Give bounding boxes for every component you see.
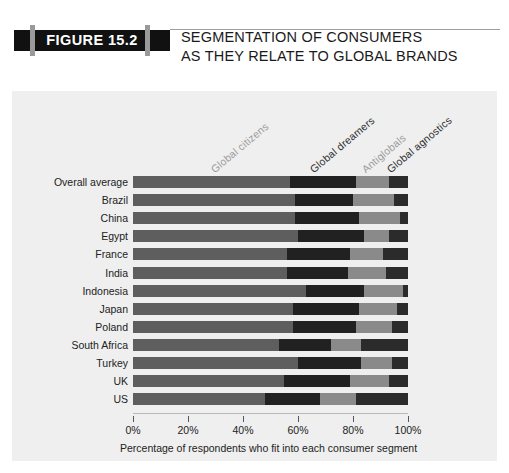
bar-segment xyxy=(350,375,389,387)
stacked-bar xyxy=(133,194,408,206)
stacked-bar xyxy=(133,375,408,387)
category-label: Overall average xyxy=(20,174,128,190)
category-label: China xyxy=(20,210,128,226)
bar-segment xyxy=(133,230,298,242)
figure-header: FIGURE 15.2 SEGMENTATION OF CONSUMERS AS… xyxy=(0,0,509,90)
category-label: Indonesia xyxy=(20,283,128,299)
x-axis-tick-label: 0% xyxy=(113,424,153,436)
bar-segment xyxy=(383,248,408,260)
figure-title-line-1: SEGMENTATION OF CONSUMERS xyxy=(181,28,501,47)
bar-segment xyxy=(295,194,353,206)
bar-segment xyxy=(133,194,295,206)
stacked-bar xyxy=(133,339,408,351)
bar-segment xyxy=(133,375,284,387)
x-axis-tick xyxy=(353,416,354,422)
stacked-bar xyxy=(133,176,408,188)
figure-title-line-2: AS THEY RELATE TO GLOBAL BRANDS xyxy=(181,47,501,66)
stacked-bar xyxy=(133,230,408,242)
bar-segment xyxy=(265,393,320,405)
chart-row: UK xyxy=(12,373,497,389)
bar-segment xyxy=(392,357,409,369)
bar-segment xyxy=(306,285,364,297)
x-axis-tick xyxy=(298,416,299,422)
bar-segment xyxy=(356,321,392,333)
figure-title: SEGMENTATION OF CONSUMERS AS THEY RELATE… xyxy=(181,28,501,66)
stacked-bar xyxy=(133,303,408,315)
chart-row: China xyxy=(12,210,497,226)
chart-row: Overall average xyxy=(12,174,497,190)
chart-row: Japan xyxy=(12,301,497,317)
bar-segment xyxy=(133,248,287,260)
bar-segment xyxy=(348,267,387,279)
stacked-bar xyxy=(133,393,408,405)
plot-area: Overall averageBrazilChinaEgyptFranceInd… xyxy=(12,91,497,461)
x-axis-tick xyxy=(243,416,244,422)
chart-row: Egypt xyxy=(12,228,497,244)
category-label: France xyxy=(20,246,128,262)
bar-segment xyxy=(359,303,398,315)
x-axis-tick xyxy=(188,416,189,422)
category-label: Japan xyxy=(20,301,128,317)
x-axis-tick xyxy=(133,416,134,422)
bar-segment xyxy=(293,303,359,315)
chart-panel: Global citizensGlobal dreamersAntiglobal… xyxy=(12,91,497,461)
x-axis-tick-label: 100% xyxy=(388,424,428,436)
bar-segment xyxy=(400,212,408,224)
bar-segment xyxy=(290,176,356,188)
bar-segment xyxy=(389,230,408,242)
bar-segment xyxy=(133,321,293,333)
category-label: UK xyxy=(20,373,128,389)
x-axis-title: Percentage of respondents who fit into e… xyxy=(120,442,417,454)
bar-segment xyxy=(350,248,383,260)
bar-segment xyxy=(133,339,279,351)
figure-tag-badge: FIGURE 15.2 xyxy=(14,30,170,51)
bar-segment xyxy=(364,285,403,297)
category-label: South Africa xyxy=(20,337,128,353)
bar-segment xyxy=(133,357,298,369)
stacked-bar xyxy=(133,267,408,279)
bar-segment xyxy=(361,357,391,369)
figure-tag-label: FIGURE 15.2 xyxy=(14,30,170,51)
x-axis-tick-label: 40% xyxy=(223,424,263,436)
chart-row: Turkey xyxy=(12,355,497,371)
bar-segment xyxy=(364,230,389,242)
bar-segment xyxy=(298,230,364,242)
bar-segment xyxy=(295,212,358,224)
bar-segment xyxy=(298,357,361,369)
bar-segment xyxy=(133,176,290,188)
chart-row: South Africa xyxy=(12,337,497,353)
bar-segment xyxy=(359,212,400,224)
bar-segment xyxy=(133,267,287,279)
chart-row: India xyxy=(12,265,497,281)
bar-segment xyxy=(356,393,408,405)
x-axis-tick-label: 60% xyxy=(278,424,318,436)
stacked-bar xyxy=(133,212,408,224)
bar-segment xyxy=(353,194,394,206)
category-label: Turkey xyxy=(20,355,128,371)
bar-segment xyxy=(389,176,408,188)
bar-segment xyxy=(133,303,293,315)
bar-segment xyxy=(386,267,408,279)
bar-segment xyxy=(133,393,265,405)
category-label: Brazil xyxy=(20,192,128,208)
category-label: Egypt xyxy=(20,228,128,244)
chart-row: US xyxy=(12,391,497,407)
chart-row: France xyxy=(12,246,497,262)
bar-segment xyxy=(287,267,348,279)
x-axis-tick-label: 20% xyxy=(168,424,208,436)
bar-segment xyxy=(389,375,408,387)
bar-segment xyxy=(397,303,408,315)
bar-segment xyxy=(284,375,350,387)
x-axis-tick-label: 80% xyxy=(333,424,373,436)
x-axis-tick xyxy=(408,416,409,422)
bar-segment xyxy=(394,194,408,206)
chart-row: Indonesia xyxy=(12,283,497,299)
bar-segment xyxy=(293,321,356,333)
chart-row: Poland xyxy=(12,319,497,335)
bar-segment xyxy=(133,212,295,224)
bar-segment xyxy=(356,176,389,188)
bar-segment xyxy=(392,321,409,333)
stacked-bar xyxy=(133,357,408,369)
stacked-bar xyxy=(133,321,408,333)
bar-segment xyxy=(361,339,408,351)
